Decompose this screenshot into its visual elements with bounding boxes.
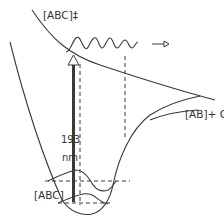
upper-wavefunction: [48, 170, 116, 191]
ground-state-label: [ABC]: [34, 189, 64, 201]
potential-energy-diagram: [ABC]‡ [AB]+ C [ABC] 193 nm: [0, 0, 224, 218]
products-label: [AB]+ C: [185, 108, 224, 120]
excitation-arrow-head: [68, 55, 79, 65]
wavelength-unit-label: nm: [62, 152, 78, 163]
wavelength-value-label: 193: [61, 134, 80, 145]
arrow-right-icon: [164, 41, 169, 47]
lower-wavefunction: [58, 194, 108, 204]
excitation-arrow-shaft: [72, 62, 75, 202]
excited-state-curve: [32, 10, 215, 100]
transition-state-label: [ABC]‡: [43, 9, 78, 21]
ground-state-right-curve: [92, 96, 200, 214]
outgoing-wavepacket: [66, 37, 138, 52]
